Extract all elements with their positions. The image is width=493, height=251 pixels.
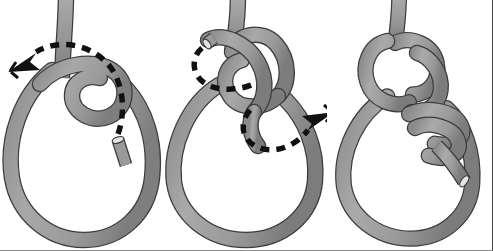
knot-illustration-figure [0, 0, 493, 251]
working-end [111, 135, 126, 165]
working-end-stub [201, 38, 214, 50]
interlaced-knot [208, 35, 287, 146]
finished-knot [366, 40, 441, 112]
panel-step-2 [162, 0, 327, 251]
panel-step-3 [326, 0, 491, 251]
panel-step-1 [0, 0, 165, 251]
